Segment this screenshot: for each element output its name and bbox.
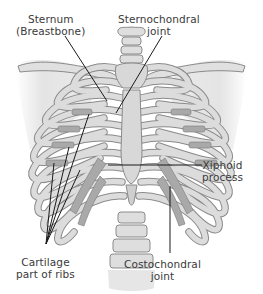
label-sternochondral-joint: Sternochondral joint — [118, 13, 200, 37]
label-cartilage-part-of-ribs: Cartilage part of ribs — [16, 256, 75, 280]
rib-cage-illustration — [0, 0, 263, 294]
label-xiphoid-process: Xiphoid process — [202, 159, 243, 183]
rib-cage-diagram: Sternum (Breastbone) Sternochondral join… — [0, 0, 263, 294]
label-sternum: Sternum (Breastbone) — [16, 13, 85, 37]
label-costochondral-joint: Costochondral joint — [124, 258, 201, 282]
